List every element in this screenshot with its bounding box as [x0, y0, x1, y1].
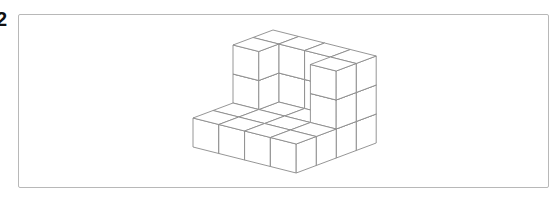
cube-structure-figure [0, 0, 559, 204]
